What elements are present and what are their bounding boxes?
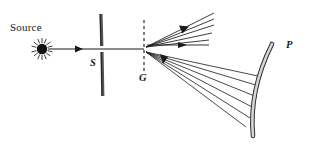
concave-mirror-arc <box>252 44 272 136</box>
source-label: Source <box>10 22 42 33</box>
diffracted-orders-fan <box>146 13 214 47</box>
mirror-label: P <box>286 40 292 51</box>
slit-aperture <box>100 14 103 96</box>
grating-label: G <box>139 73 147 84</box>
slit-label: S <box>90 58 96 69</box>
incident-beam-arrowhead <box>75 46 83 53</box>
optics-diagram-figure: Source S G P <box>0 0 310 153</box>
diagram-canvas <box>0 0 310 153</box>
